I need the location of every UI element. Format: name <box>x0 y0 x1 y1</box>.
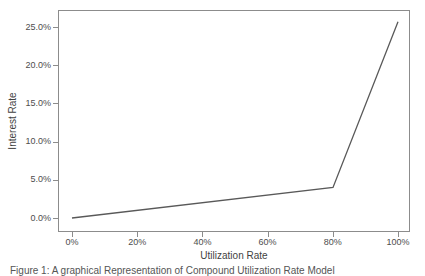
y-tick-label: 15.0% <box>25 99 51 108</box>
x-tick-label: 20% <box>128 238 146 247</box>
y-tick-label: 25.0% <box>25 23 51 32</box>
x-tick-label: 40% <box>193 238 211 247</box>
x-tick-label: 60% <box>259 238 277 247</box>
y-tick-label: 0.0% <box>30 214 51 223</box>
y-tick-label: 10.0% <box>25 137 51 146</box>
figure-caption: Figure 1: A graphical Representation of … <box>10 265 418 276</box>
y-tick-label: 5.0% <box>30 175 51 184</box>
interest-rate-line <box>72 22 398 218</box>
y-tick-label: 20.0% <box>25 61 51 70</box>
y-axis-title: Interest Rate <box>8 92 18 149</box>
chart-plot-svg <box>58 10 410 232</box>
x-tick-label: 80% <box>324 238 342 247</box>
x-tick-label: 100% <box>386 238 409 247</box>
x-axis-title: Utilization Rate <box>200 251 267 261</box>
x-tick-label: 0% <box>65 238 78 247</box>
